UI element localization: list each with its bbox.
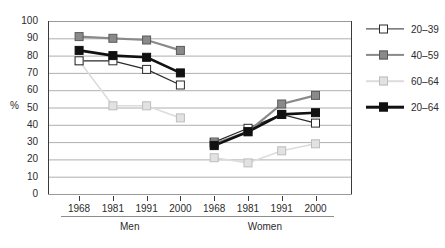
y-tick-80: 80: [8, 51, 38, 61]
legend-label: 60–64: [411, 76, 439, 87]
data-point: [75, 33, 83, 41]
x-tick-mark: [316, 196, 317, 201]
x-tick-mark: [79, 196, 80, 201]
data-point: [143, 36, 151, 44]
x-tick-mark: [282, 196, 283, 201]
group-label-women: Women: [205, 221, 325, 232]
chart-legend: 20–3940–5960–6420–64: [366, 16, 444, 120]
group-label-men: Men: [70, 221, 190, 232]
x-tick-women-1991: 1991: [265, 203, 299, 214]
x-tick-women-1981: 1981: [231, 203, 265, 214]
x-tick-mark: [113, 196, 114, 201]
x-tick-men-1981: 1981: [96, 203, 130, 214]
y-tick-0: 0: [8, 189, 38, 199]
x-tick-women-1968: 1968: [197, 203, 231, 214]
x-tick-men-1991: 1991: [130, 203, 164, 214]
x-tick-women-2000: 2000: [299, 203, 333, 214]
series-line-men-20-64: [79, 50, 180, 73]
y-tick-50: 50: [8, 103, 38, 113]
legend-light-square-icon: [379, 77, 388, 86]
chart-canvas: [48, 21, 352, 195]
group-rule-men: [61, 216, 198, 217]
legend-swatch-icon: [366, 100, 404, 114]
x-tick-mark: [147, 196, 148, 201]
data-point: [244, 159, 252, 167]
y-tick-70: 70: [8, 68, 38, 78]
plot-area: [48, 21, 352, 194]
data-point: [210, 142, 218, 150]
legend-filled-square-icon: [379, 51, 388, 60]
legend-label: 40–59: [411, 50, 439, 61]
legend-item-60-64[interactable]: 60–64: [366, 68, 444, 94]
data-point: [109, 52, 117, 60]
data-point: [312, 91, 320, 99]
x-tick-mark: [214, 196, 215, 201]
y-tick-10: 10: [8, 172, 38, 182]
y-tick-20: 20: [8, 154, 38, 164]
legend-swatch-icon: [366, 22, 404, 36]
y-tick-100: 100: [8, 16, 38, 26]
data-point: [312, 119, 320, 127]
data-point: [176, 81, 184, 89]
data-point: [210, 154, 218, 162]
data-point: [109, 102, 117, 110]
legend-item-40-59[interactable]: 40–59: [366, 42, 444, 68]
y-tick-60: 60: [8, 85, 38, 95]
data-point: [109, 34, 117, 42]
legend-swatch-icon: [366, 48, 404, 62]
data-point: [312, 140, 320, 148]
data-point: [176, 114, 184, 122]
x-tick-mark: [180, 196, 181, 201]
data-point: [312, 109, 320, 117]
data-point: [278, 100, 286, 108]
x-tick-mark: [248, 196, 249, 201]
y-tick-40: 40: [8, 120, 38, 130]
legend-item-20-39[interactable]: 20–39: [366, 16, 444, 42]
data-point: [75, 46, 83, 54]
data-point: [176, 69, 184, 77]
chart-root: % 1009080706050403020100 196819811991200…: [0, 0, 445, 248]
legend-open-square-icon: [379, 25, 388, 34]
legend-label: 20–64: [411, 102, 439, 113]
data-point: [143, 65, 151, 73]
x-tick-men-1968: 1968: [62, 203, 96, 214]
data-point: [75, 57, 83, 65]
data-point: [244, 128, 252, 136]
legend-swatch-icon: [366, 74, 404, 88]
y-tick-30: 30: [8, 137, 38, 147]
legend-item-20-64[interactable]: 20–64: [366, 94, 444, 120]
y-tick-90: 90: [8, 33, 38, 43]
x-tick-men-2000: 2000: [163, 203, 197, 214]
data-point: [278, 110, 286, 118]
data-point: [278, 147, 286, 155]
legend-label: 20–39: [411, 24, 439, 35]
group-rule-women: [196, 216, 333, 217]
series-line-men-60-64: [79, 61, 180, 118]
legend-black-square-icon: [379, 103, 388, 112]
data-point: [143, 102, 151, 110]
data-point: [143, 53, 151, 61]
data-point: [176, 46, 184, 54]
